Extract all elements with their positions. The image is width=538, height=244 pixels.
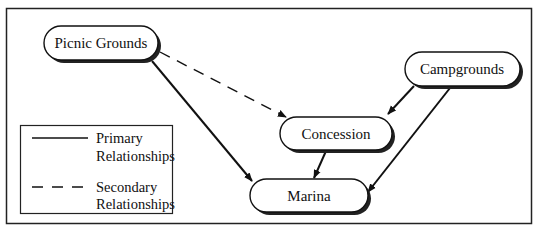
- node-marina: Marina: [250, 179, 371, 215]
- legend-primary-label-line1: Primary: [96, 130, 143, 146]
- relationship-diagram: Picnic Grounds Campgrounds Concession Ma…: [0, 0, 538, 244]
- legend-secondary-label-line1: Secondary: [96, 179, 158, 195]
- node-picnic-grounds: Picnic Grounds: [44, 26, 161, 63]
- node-label: Picnic Grounds: [55, 35, 148, 51]
- node-label: Concession: [301, 126, 371, 142]
- legend-primary-label-line2: Relationships: [96, 148, 175, 164]
- node-concession: Concession: [280, 117, 395, 153]
- node-label: Marina: [287, 188, 331, 204]
- legend: Primary Relationships Secondary Relation…: [21, 126, 176, 214]
- node-campgrounds: Campgrounds: [405, 52, 523, 89]
- legend-secondary-label-line2: Relationships: [96, 196, 175, 212]
- node-label: Campgrounds: [420, 61, 504, 77]
